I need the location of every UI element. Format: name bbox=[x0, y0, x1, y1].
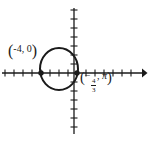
circle-curve bbox=[40, 48, 78, 90]
point-a-r-value: -4 bbox=[13, 43, 21, 54]
x-axis-arrowhead-icon bbox=[142, 69, 148, 78]
fraction-four-thirds: 43 bbox=[91, 78, 97, 94]
coordinate-plot bbox=[0, 0, 149, 141]
point-marker-origin bbox=[74, 70, 79, 75]
fraction-denominator: 3 bbox=[91, 87, 97, 94]
polar-graph-figure: (-4, 0) (−43, π) bbox=[0, 0, 149, 141]
fraction-numerator: 4 bbox=[91, 78, 97, 85]
point-b-negative-sign: − bbox=[85, 70, 91, 81]
close-paren: ) bbox=[107, 69, 112, 85]
label-point-minus-4-0: (-4, 0) bbox=[8, 43, 37, 54]
point-marker-left bbox=[38, 70, 43, 75]
label-point-minus-4-3-pi: (−43, π) bbox=[80, 71, 112, 94]
close-paren: ) bbox=[32, 42, 37, 59]
